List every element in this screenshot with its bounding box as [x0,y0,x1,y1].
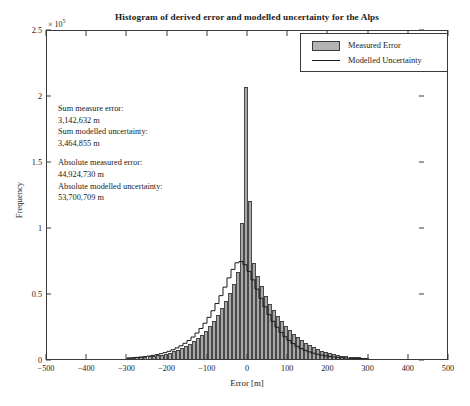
legend-item-measured-error: Measured Error [306,38,442,53]
y-tick-label: 2.5 [8,26,42,35]
x-tick-mark [287,30,288,36]
annotation-line: Absolute measured error: [58,157,208,169]
chart-legend: Measured Error Modelled Uncertainty [300,33,448,72]
y-tick-mark [46,360,51,361]
x-axis-label: Error [m] [46,378,448,388]
uncertainty-step-path [127,261,367,359]
x-tick-mark [367,354,368,360]
annotation-line: 53,700,709 m [58,192,208,204]
x-tick-mark [206,354,207,360]
chart-title: Histogram of derived error and modelled … [46,12,448,22]
x-tick-mark [247,30,248,36]
y-axis-exponent: × 105 [48,18,66,29]
y-tick-mark [419,30,424,31]
x-tick-mark [46,30,47,36]
y-tick-mark [46,96,51,97]
annotation-text-block: Sum measure error:3,142,632 mSum modelle… [58,103,208,204]
y-tick-mark [419,96,424,97]
x-tick-mark [126,354,127,360]
y-axis-exponent-power: 5 [63,18,66,24]
annotation-line: 44,924,730 m [58,169,208,181]
annotation-spacer [58,149,208,157]
y-axis-exponent-text: × 10 [48,20,63,29]
x-tick-label: 500 [423,364,470,373]
x-tick-mark [166,30,167,36]
legend-label-measured-error: Measured Error [348,41,401,50]
x-tick-mark [448,354,449,360]
annotation-line: 3,142,632 m [58,115,208,127]
x-tick-mark [247,354,248,360]
y-tick-mark [419,360,424,361]
annotation-line: 3,464,855 m [58,138,208,150]
x-tick-mark [126,30,127,36]
annotation-line: Absolute modelled uncertainty: [58,181,208,193]
figure-container: Histogram of derived error and modelled … [0,0,470,406]
legend-item-modelled-uncertainty: Modelled Uncertainty [306,53,442,68]
legend-swatch-bar-icon [312,41,340,51]
x-tick-mark [86,354,87,360]
annotation-line: Sum measure error: [58,103,208,115]
y-tick-label: 0.5 [8,290,42,299]
y-tick-mark [46,228,51,229]
y-tick-mark [419,228,424,229]
y-tick-label: 2 [8,92,42,101]
legend-swatch-line-icon [312,60,340,61]
x-tick-mark [407,354,408,360]
x-tick-mark [166,354,167,360]
annotation-line: Sum modelled uncertainty: [58,126,208,138]
x-tick-mark [206,30,207,36]
x-tick-mark [327,354,328,360]
y-tick-mark [419,294,424,295]
legend-label-modelled-uncertainty: Modelled Uncertainty [348,56,422,65]
y-axis-label: Frequency [14,145,24,255]
y-tick-mark [419,162,424,163]
x-tick-mark [287,354,288,360]
y-tick-mark [46,162,51,163]
x-tick-mark [86,30,87,36]
y-tick-mark [46,294,51,295]
y-tick-mark [46,30,51,31]
